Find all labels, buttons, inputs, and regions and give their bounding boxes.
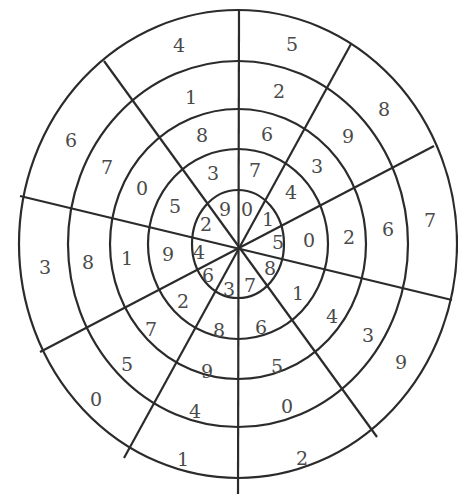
cell-digit: 9	[395, 351, 407, 373]
cell-digit: 5	[272, 231, 284, 253]
cell-digit: 9	[162, 243, 174, 265]
cell-digit: 3	[362, 324, 374, 346]
cell-digit: 2	[177, 290, 189, 312]
cell-digit: 6	[382, 218, 394, 240]
cell-digit: 1	[262, 208, 274, 230]
cell-digit: 9	[201, 360, 213, 382]
cell-digit: 9	[219, 198, 231, 220]
cell-digit: 1	[292, 282, 304, 304]
cell-digit: 6	[202, 264, 214, 286]
cell-digit: 1	[177, 448, 189, 470]
cell-digit: 7	[424, 209, 436, 231]
cell-digit: 4	[193, 241, 205, 263]
cell-digit: 8	[213, 319, 225, 341]
cell-digit: 5	[286, 33, 298, 55]
cell-digit: 0	[136, 177, 148, 199]
cell-digit: 7	[244, 274, 256, 296]
cell-digit: 8	[82, 251, 94, 273]
cell-digit: 1	[185, 86, 197, 108]
cell-digit: 5	[121, 353, 133, 375]
spoke-line-5	[40, 146, 434, 352]
cell-digit: 2	[273, 80, 285, 102]
spoke-line-3	[20, 196, 452, 300]
cell-digit: 2	[296, 447, 308, 469]
cell-digit: 4	[173, 34, 185, 56]
cell-digit: 2	[343, 226, 355, 248]
cell-digit: 8	[378, 98, 390, 120]
cell-digit: 1	[121, 247, 133, 269]
number-wheel-diagram: 9015873642740168295363245971082963045871…	[0, 0, 458, 497]
cell-digit: 5	[169, 195, 181, 217]
cell-digit: 4	[326, 305, 338, 327]
cell-digit: 6	[65, 129, 77, 151]
cell-digit: 7	[145, 318, 157, 340]
cell-digit: 8	[196, 124, 208, 146]
cell-digit: 0	[241, 198, 253, 220]
cell-digit: 0	[281, 395, 293, 417]
cell-digit: 3	[39, 256, 51, 278]
cell-digit: 3	[207, 162, 219, 184]
cell-digit: 2	[200, 213, 212, 235]
cell-digit: 7	[101, 156, 113, 178]
cell-digit: 6	[261, 123, 273, 145]
cell-digit: 8	[264, 257, 276, 279]
cell-digit: 0	[303, 229, 315, 251]
cell-digit: 0	[90, 388, 102, 410]
cell-digit: 3	[223, 278, 235, 300]
cell-digit: 6	[255, 316, 267, 338]
cell-digit: 4	[285, 181, 297, 203]
cell-digit: 4	[189, 400, 201, 422]
cell-digit: 9	[342, 125, 354, 147]
cell-digit: 5	[271, 355, 283, 377]
cell-digit: 3	[311, 155, 323, 177]
cell-digit: 7	[249, 159, 261, 181]
